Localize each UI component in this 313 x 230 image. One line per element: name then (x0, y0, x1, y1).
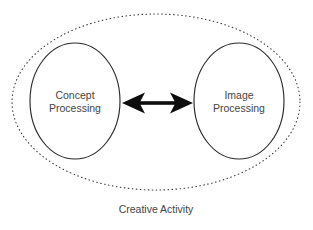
diagram-caption: Creative Activity (119, 203, 194, 215)
image-processing-label-line1: Image (224, 89, 253, 101)
diagram-canvas: Concept Processing Image Processing Crea… (0, 0, 313, 230)
node-image-processing[interactable]: Image Processing (194, 43, 284, 159)
concept-processing-label-line1: Concept (55, 89, 94, 101)
creative-activity-diagram: Concept Processing Image Processing Crea… (0, 0, 313, 230)
concept-processing-label-line2: Processing (49, 102, 101, 114)
arrow-shaft (138, 101, 177, 105)
bidirectional-arrow-icon (122, 93, 193, 114)
image-processing-label-line2: Processing (213, 102, 265, 114)
node-concept-processing[interactable]: Concept Processing (30, 43, 120, 159)
